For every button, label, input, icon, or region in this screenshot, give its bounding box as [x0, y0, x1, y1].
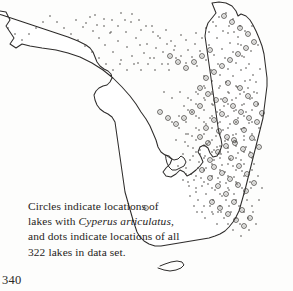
- lake-dot-marker: [28, 33, 30, 35]
- lake-dot-marker: [211, 139, 213, 141]
- lake-circle-core: [225, 145, 226, 146]
- lake-circle-core: [239, 27, 240, 28]
- lake-dot-marker: [243, 175, 245, 177]
- lake-dot-marker: [219, 121, 221, 123]
- lake-dot-marker: [185, 133, 187, 135]
- lake-dot-marker: [235, 169, 237, 171]
- lake-dot-marker: [194, 43, 196, 45]
- lake-dot-marker: [70, 33, 72, 35]
- lake-dot-marker: [98, 37, 100, 39]
- lake-dot-marker: [227, 91, 229, 93]
- lake-dot-marker: [190, 99, 192, 101]
- lake-circle-core: [193, 61, 194, 62]
- lake-dot-marker: [258, 199, 260, 201]
- lake-dot-marker: [82, 26, 84, 28]
- lake-dot-marker: [227, 103, 229, 105]
- lake-dot-marker: [89, 16, 91, 18]
- lake-dot-marker: [201, 37, 203, 39]
- lake-dot-marker: [104, 44, 106, 46]
- lake-dot-marker: [192, 147, 194, 149]
- lake-dot-marker: [85, 22, 87, 24]
- lake-dot-marker: [219, 74, 221, 76]
- lake-dot-marker: [211, 163, 213, 165]
- lake-dot-marker: [105, 63, 107, 65]
- lake-circle-core: [237, 53, 238, 54]
- lake-dot-marker: [249, 98, 251, 100]
- lake-dot-marker: [167, 63, 169, 65]
- lake-circle-core: [201, 169, 202, 170]
- lake-dot-marker: [227, 175, 229, 177]
- lake-dot-marker: [192, 155, 194, 157]
- lake-circle-core: [221, 65, 222, 66]
- lake-dot-marker: [218, 87, 220, 89]
- lake-dot-marker: [216, 37, 218, 39]
- lake-dot-marker: [145, 25, 147, 27]
- lake-dot-marker: [248, 63, 250, 65]
- lake-dot-marker: [228, 25, 230, 27]
- lake-circle-core: [242, 148, 243, 149]
- lake-circle-core: [221, 172, 222, 173]
- lake-dot-marker: [222, 129, 224, 131]
- lake-dot-marker: [235, 133, 237, 135]
- lake-dot-marker: [241, 104, 243, 106]
- lake-dot-marker: [187, 181, 189, 183]
- lake-dot-marker: [171, 121, 173, 123]
- lake-dot-marker: [131, 13, 133, 15]
- lake-dot-marker: [253, 163, 255, 165]
- lake-circle-core: [177, 61, 178, 62]
- lake-dot-marker: [255, 81, 257, 83]
- caption-line-2-prefix: lakes with: [28, 215, 79, 227]
- lake-dot-marker: [243, 103, 245, 105]
- lake-dot-marker: [178, 127, 180, 129]
- lake-dot-marker: [205, 193, 207, 195]
- lake-circle-core: [213, 119, 214, 120]
- lake-dot-marker: [227, 68, 229, 70]
- lake-dot-marker: [198, 161, 200, 163]
- lake-dot-marker: [213, 54, 215, 56]
- lake-dot-marker: [211, 93, 213, 95]
- lake-dot-marker: [235, 62, 237, 64]
- lake-circle-core: [209, 177, 210, 178]
- lake-dot-marker: [91, 51, 93, 53]
- lake-dot-marker: [220, 98, 222, 100]
- lake-dot-marker: [219, 181, 221, 183]
- lake-dot-marker: [257, 44, 259, 46]
- lake-circle-core: [205, 127, 206, 128]
- lake-dot-marker: [196, 65, 198, 67]
- lake-circle-core: [175, 123, 176, 124]
- lake-circle-core: [249, 217, 250, 218]
- lake-dot-marker: [227, 115, 229, 117]
- lake-dot-marker: [198, 129, 200, 131]
- lake-dot-marker: [232, 229, 234, 231]
- lake-dot-marker: [126, 69, 128, 71]
- caption-line-3: and dots indicate locations of all: [28, 229, 228, 244]
- lake-dot-marker: [212, 21, 214, 23]
- lake-dot-marker: [170, 40, 172, 42]
- lake-dot-marker: [232, 75, 234, 77]
- lake-dot-marker: [228, 205, 230, 207]
- lake-dot-marker: [205, 167, 207, 169]
- lake-dot-marker: [219, 193, 221, 195]
- lake-dot-marker: [237, 36, 239, 38]
- lake-circle-core: [245, 47, 246, 48]
- lake-dot-marker: [84, 45, 86, 47]
- lake-dot-marker: [117, 40, 119, 42]
- lake-dot-marker: [244, 30, 246, 32]
- lake-dot-marker: [203, 133, 205, 135]
- lake-dot-marker: [243, 91, 245, 93]
- lake-dot-marker: [131, 55, 133, 57]
- lake-dot-marker: [211, 103, 213, 105]
- lake-dot-marker: [140, 69, 142, 71]
- lake-circle-core: [205, 77, 206, 78]
- lake-dot-marker: [251, 97, 253, 99]
- lake-dot-marker: [225, 12, 227, 14]
- lake-dot-marker: [203, 97, 205, 99]
- lake-dot-marker: [205, 59, 207, 61]
- lake-circle-core: [209, 159, 210, 160]
- lake-circle-core: [225, 193, 226, 194]
- lake-dot-marker: [235, 97, 237, 99]
- lake-dot-marker: [211, 127, 213, 129]
- lake-dot-marker: [259, 68, 261, 70]
- lake-circle-core: [237, 184, 238, 185]
- lake-dot-marker: [42, 21, 44, 23]
